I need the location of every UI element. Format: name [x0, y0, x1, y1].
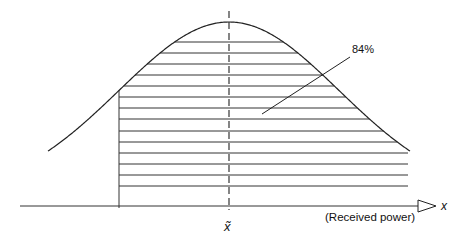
axis-label: x [440, 199, 448, 213]
median-label: x̃ [223, 219, 231, 234]
normal-distribution-diagram: 84% x (Received power) x̃ [0, 0, 466, 249]
percent-label: 84% [352, 43, 374, 55]
bell-curve [48, 22, 410, 151]
axis-caption: (Received power) [325, 211, 415, 223]
axis-arrowhead-icon [418, 200, 436, 212]
